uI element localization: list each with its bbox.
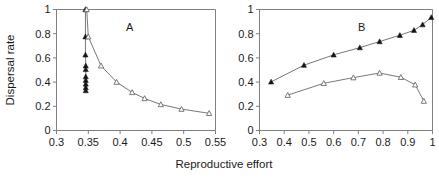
y-tick-label-B-2: 0.4 bbox=[238, 76, 253, 88]
figure-canvas: 00.20.40.60.810.30.350.40.450.50.55A00.2… bbox=[0, 0, 439, 178]
marker-B-open-triangles-5 bbox=[413, 82, 418, 87]
y-tick-label-B-1: 0.2 bbox=[238, 100, 253, 112]
x-tick-label-B-5: 0.8 bbox=[375, 136, 390, 148]
panel-A: 00.20.40.60.810.30.350.40.450.50.55A bbox=[35, 3, 226, 147]
panel-tag-B: B bbox=[358, 21, 365, 33]
y-tick-label-A-4: 0.8 bbox=[35, 28, 50, 40]
marker-A-filled-triangles-2 bbox=[83, 52, 88, 57]
x-tick-label-B-6: 0.9 bbox=[400, 136, 415, 148]
x-tick-label-B-0: 0.3 bbox=[252, 136, 267, 148]
plot-frame-B bbox=[260, 10, 433, 131]
x-tick-label-B-2: 0.5 bbox=[301, 136, 316, 148]
x-tick-label-A-0: 0.3 bbox=[49, 136, 64, 148]
panel-B: 00.20.40.60.810.30.40.50.60.70.80.91B bbox=[238, 3, 435, 147]
x-tick-label-A-2: 0.4 bbox=[112, 136, 127, 148]
x-tick-label-A-5: 0.55 bbox=[205, 136, 226, 148]
marker-B-filled-triangles-0 bbox=[269, 79, 274, 84]
x-tick-label-B-4: 0.7 bbox=[351, 136, 366, 148]
marker-B-filled-triangles-6 bbox=[411, 28, 416, 33]
y-tick-label-B-4: 0.8 bbox=[238, 28, 253, 40]
x-tick-label-B-1: 0.4 bbox=[277, 136, 292, 148]
y-tick-label-A-5: 1 bbox=[44, 3, 50, 15]
y-tick-label-B-3: 0.6 bbox=[238, 52, 253, 64]
series-line-B-open-triangles bbox=[288, 73, 424, 101]
marker-B-open-triangles-3 bbox=[377, 70, 382, 75]
x-tick-label-B-3: 0.6 bbox=[326, 136, 341, 148]
panel-tag-A: A bbox=[126, 21, 134, 33]
x-tick-label-A-3: 0.45 bbox=[141, 136, 162, 148]
marker-B-open-triangles-6 bbox=[421, 98, 426, 103]
series-line-B-filled-triangles bbox=[271, 17, 431, 82]
x-tick-label-A-4: 0.5 bbox=[176, 136, 191, 148]
marker-A-open-triangles-2 bbox=[98, 63, 103, 68]
y-tick-label-A-1: 0.2 bbox=[35, 100, 50, 112]
marker-B-filled-triangles-8 bbox=[429, 15, 434, 20]
y-tick-label-A-2: 0.4 bbox=[35, 76, 50, 88]
x-tick-label-B-7: 1 bbox=[429, 136, 435, 148]
marker-A-open-triangles-4 bbox=[130, 90, 135, 95]
figure-root: 00.20.40.60.810.30.350.40.450.50.55A00.2… bbox=[0, 0, 439, 178]
marker-A-open-triangles-5 bbox=[142, 96, 147, 101]
y-tick-label-A-3: 0.6 bbox=[35, 52, 50, 64]
y-tick-label-B-5: 1 bbox=[247, 3, 253, 15]
series-line-A-open-triangles bbox=[87, 10, 209, 114]
y-axis-title: Dispersal rate bbox=[4, 35, 16, 106]
x-tick-label-A-1: 0.35 bbox=[78, 136, 99, 148]
y-tick-label-A-0: 0 bbox=[44, 124, 50, 136]
x-axis-title: Reproductive effort bbox=[176, 158, 274, 170]
plot-frame-A bbox=[57, 10, 216, 131]
y-tick-label-B-0: 0 bbox=[247, 124, 253, 136]
